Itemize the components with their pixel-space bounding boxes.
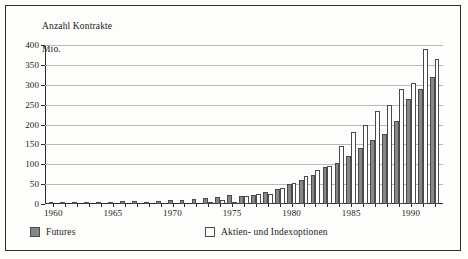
y-axis-tick bbox=[41, 184, 45, 185]
bar-futures-1970 bbox=[168, 200, 173, 204]
x-axis-tick-label: 1960 bbox=[44, 208, 63, 218]
bar-futures-1981 bbox=[299, 180, 304, 204]
x-axis-tick bbox=[435, 204, 436, 207]
bar-options-1976 bbox=[244, 196, 249, 204]
y-axis-tick-label: 100 bbox=[13, 159, 39, 169]
bar-options-1991 bbox=[423, 49, 428, 204]
x-axis-tick bbox=[65, 204, 66, 207]
x-axis-tick bbox=[351, 204, 352, 207]
x-axis-tick bbox=[315, 204, 316, 207]
x-axis-tick bbox=[77, 204, 78, 207]
bar-options-1989 bbox=[399, 89, 404, 204]
bar-futures-1966 bbox=[120, 201, 125, 204]
bar-futures-1976 bbox=[239, 196, 244, 204]
bar-options-1973 bbox=[208, 202, 213, 204]
bar-options-1992 bbox=[435, 59, 440, 204]
x-axis-tick bbox=[149, 204, 150, 207]
bar-futures-1969 bbox=[156, 201, 161, 204]
gridline bbox=[45, 65, 443, 66]
legend-item-futures: Futures bbox=[30, 227, 76, 237]
x-axis-tick bbox=[292, 204, 293, 207]
bar-options-1986 bbox=[363, 125, 368, 205]
bar-options-1980 bbox=[292, 183, 297, 204]
x-axis-tick bbox=[399, 204, 400, 207]
y-axis-tick bbox=[41, 45, 45, 46]
x-axis-tick-label: 1985 bbox=[342, 208, 361, 218]
bar-futures-1979 bbox=[275, 189, 280, 204]
x-axis-tick bbox=[232, 204, 233, 207]
x-axis-tick bbox=[220, 204, 221, 207]
bar-options-1979 bbox=[280, 188, 285, 204]
plot-area bbox=[45, 45, 443, 204]
x-axis-tick-label: 1975 bbox=[223, 208, 242, 218]
y-axis-tick-label: 0 bbox=[13, 199, 39, 209]
x-axis-tick bbox=[161, 204, 162, 207]
bar-futures-1985 bbox=[346, 156, 351, 204]
x-axis-tick bbox=[280, 204, 281, 207]
white-swatch bbox=[205, 227, 215, 237]
bar-options-1987 bbox=[375, 111, 380, 204]
x-axis-tick bbox=[196, 204, 197, 207]
x-axis-tick bbox=[53, 204, 54, 207]
bar-options-1988 bbox=[387, 105, 392, 204]
gridline bbox=[45, 125, 443, 126]
y-axis-tick bbox=[41, 105, 45, 106]
bar-futures-1982 bbox=[311, 175, 316, 204]
bar-futures-1980 bbox=[287, 184, 292, 204]
x-axis-tick bbox=[101, 204, 102, 207]
bar-options-1990 bbox=[411, 83, 416, 204]
y-axis-tick bbox=[41, 125, 45, 126]
x-axis-tick bbox=[339, 204, 340, 207]
bar-futures-1971 bbox=[180, 200, 185, 204]
bar-options-1981 bbox=[304, 176, 309, 204]
y-axis-tick bbox=[41, 204, 45, 205]
x-axis-tick-label: 1980 bbox=[282, 208, 301, 218]
bar-futures-1973 bbox=[203, 198, 208, 204]
bar-options-1977 bbox=[256, 194, 261, 204]
bar-options-1978 bbox=[268, 194, 273, 204]
x-axis-tick bbox=[327, 204, 328, 207]
y-axis-tick bbox=[41, 164, 45, 165]
bar-options-1975 bbox=[232, 202, 237, 204]
chart-figure: Anzahl Kontrakte Mio. 050100150200250300… bbox=[0, 0, 468, 259]
y-axis-tick-label: 400 bbox=[13, 40, 39, 50]
axis-title-line-1: Anzahl Kontrakte bbox=[42, 21, 112, 33]
bar-futures-1963 bbox=[84, 202, 89, 204]
x-axis-tick bbox=[387, 204, 388, 207]
bar-futures-1961 bbox=[60, 202, 65, 204]
bar-options-1984 bbox=[339, 146, 344, 204]
bar-options-1974 bbox=[220, 200, 225, 204]
x-axis-tick bbox=[89, 204, 90, 207]
x-axis-tick bbox=[304, 204, 305, 207]
bar-futures-1977 bbox=[251, 195, 256, 204]
bar-futures-1984 bbox=[335, 163, 340, 204]
bar-futures-1978 bbox=[263, 192, 268, 204]
legend-label: Aktien- und Indexoptionen bbox=[221, 227, 328, 237]
gridline bbox=[45, 45, 443, 46]
chart-legend: FuturesAktien- und Indexoptionen bbox=[30, 227, 430, 243]
filled-gray-swatch bbox=[30, 227, 40, 237]
x-axis-tick bbox=[173, 204, 174, 207]
x-axis-tick bbox=[423, 204, 424, 207]
x-axis-tick bbox=[363, 204, 364, 207]
y-axis-labels: 050100150200250300350400 bbox=[11, 45, 39, 204]
bar-futures-1988 bbox=[382, 134, 387, 204]
y-axis-tick-label: 300 bbox=[13, 80, 39, 90]
bar-futures-1962 bbox=[72, 202, 77, 204]
x-axis-tick bbox=[125, 204, 126, 207]
legend-item-options: Aktien- und Indexoptionen bbox=[205, 227, 328, 237]
bar-futures-1964 bbox=[96, 202, 101, 204]
bar-options-1985 bbox=[351, 132, 356, 204]
bar-futures-1983 bbox=[323, 167, 328, 204]
x-axis-tick bbox=[137, 204, 138, 207]
bar-futures-1992 bbox=[430, 77, 435, 204]
bar-futures-1972 bbox=[192, 199, 197, 204]
y-axis-tick bbox=[41, 65, 45, 66]
gridline bbox=[45, 105, 443, 106]
gridline bbox=[45, 85, 443, 86]
legend-label: Futures bbox=[46, 227, 76, 237]
y-axis-tick-label: 200 bbox=[13, 120, 39, 130]
bar-futures-1987 bbox=[370, 140, 375, 204]
y-axis-tick bbox=[41, 85, 45, 86]
bar-futures-1991 bbox=[418, 89, 423, 204]
